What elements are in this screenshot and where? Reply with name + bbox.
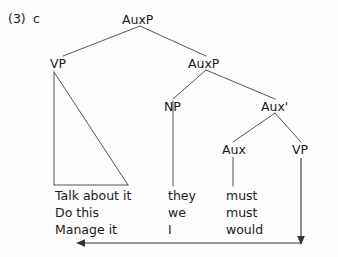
movement-arrowhead-left (76, 239, 85, 247)
word-vp-row-2: Do this (55, 207, 99, 220)
node-label-vp-right: VP (292, 144, 308, 157)
node-label-np: NP (164, 101, 181, 114)
branch-auxbar-to-vp (275, 113, 301, 142)
word-np-row-1: they (168, 190, 196, 203)
word-aux-row-2: must (226, 207, 258, 220)
branch-auxbar-to-aux (233, 113, 275, 142)
word-np-row-2: we (168, 207, 186, 220)
node-label-auxp-lower: AuxP (188, 58, 219, 71)
word-aux-row-3: would (226, 224, 263, 237)
syntax-tree-figure: (3) c (0, 0, 338, 257)
word-vp-row-1: Talk about it (55, 190, 131, 203)
movement-arrowhead-down (297, 236, 305, 245)
node-label-aux: Aux (222, 144, 246, 157)
branch-auxp-top-to-auxp (140, 26, 206, 56)
word-vp-row-3: Manage it (55, 224, 117, 237)
branch-auxp-to-auxbar (206, 70, 275, 99)
node-label-auxp-top: AuxP (122, 14, 153, 27)
word-aux-row-1: must (226, 190, 258, 203)
branch-auxp-to-np (173, 70, 206, 99)
node-label-vp-left: VP (50, 58, 66, 71)
node-label-aux-bar: Aux' (261, 101, 288, 114)
word-np-row-3: I (168, 224, 172, 237)
branch-auxp-top-to-vp (63, 26, 140, 56)
triangle-vp-hypotenuse (54, 72, 128, 185)
